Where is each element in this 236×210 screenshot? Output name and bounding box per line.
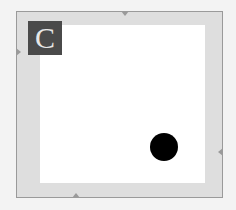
label-badge: C [28, 21, 62, 55]
frame-notch-right [218, 148, 223, 156]
frame-notch-bottom [72, 193, 80, 198]
play-field[interactable] [40, 25, 205, 183]
frame-notch-left [16, 48, 21, 56]
token-dot[interactable] [150, 133, 178, 161]
frame-notch-top [121, 11, 129, 16]
